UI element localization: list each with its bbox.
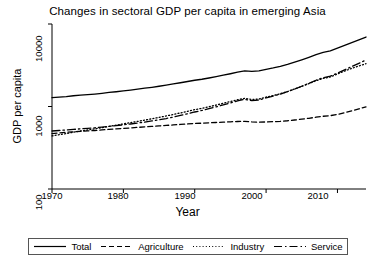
- legend-item-total: Total: [33, 241, 91, 252]
- series-line-agriculture: [52, 107, 366, 134]
- series-line-industry: [52, 64, 366, 136]
- legend-swatch-dashdot: [273, 242, 307, 251]
- series-line-total: [52, 37, 366, 98]
- legend-label-industry: Industry: [230, 241, 264, 252]
- legend-swatch-dashed: [100, 242, 134, 251]
- chart-legend: Total Agriculture Industry Service: [28, 238, 348, 255]
- legend-swatch-dotted: [192, 242, 226, 251]
- legend-label-agriculture: Agriculture: [138, 241, 183, 252]
- legend-swatch-solid: [33, 242, 67, 251]
- chart-figure: Changes in sectoral GDP per capita in em…: [0, 0, 375, 263]
- data-series-group: [52, 37, 366, 136]
- legend-label-service: Service: [311, 241, 343, 252]
- legend-item-industry: Industry: [192, 241, 264, 252]
- axis-tickmarks: [48, 24, 337, 193]
- plot-area: [0, 0, 375, 263]
- legend-item-service: Service: [273, 241, 343, 252]
- legend-item-agriculture: Agriculture: [100, 241, 183, 252]
- series-line-service: [52, 60, 366, 131]
- legend-label-total: Total: [71, 241, 91, 252]
